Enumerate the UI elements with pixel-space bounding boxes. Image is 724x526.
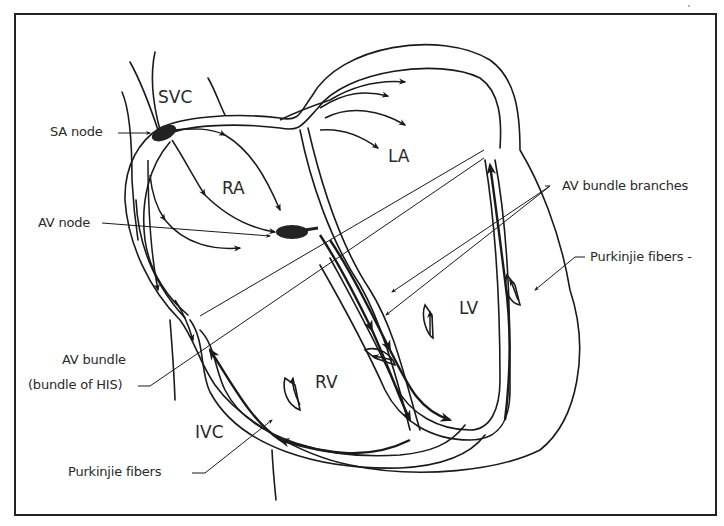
label-svc: SVC [158, 87, 192, 107]
conduction-pathways [148, 82, 518, 454]
label-sa-node: SA node [50, 124, 103, 139]
av-node-shape [276, 225, 308, 239]
label-av-bundle-branches: AV bundle branches [562, 178, 688, 193]
label-purkinje-fibers-left: Purkinjie fibers [68, 464, 161, 479]
label-bundle-of-his: (bundle of HIS) [28, 377, 122, 392]
label-rv: RV [315, 372, 338, 392]
label-la: LA [388, 146, 410, 166]
label-ra: RA [222, 178, 245, 198]
sa-node-shape [149, 121, 178, 145]
label-av-bundle: AV bundle [62, 352, 126, 367]
label-ivc: IVC [195, 422, 224, 442]
label-lv: LV [459, 298, 478, 318]
label-purkinje-fibers-right: Purkinjie fibers - [590, 249, 692, 264]
label-av-node: AV node [38, 215, 90, 230]
